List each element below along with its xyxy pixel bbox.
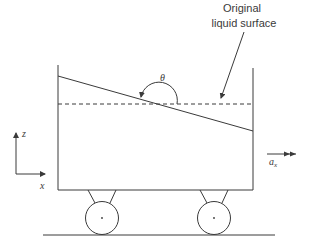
left-wheel-strut-a (88, 190, 95, 203)
right-wheel-axle (213, 217, 215, 219)
acceleration-arrowhead-1 (284, 152, 290, 157)
right-wheel-strut-a (200, 190, 207, 203)
original-surface-label-line1: Original (223, 2, 261, 14)
acceleration-label: ax (269, 156, 278, 169)
acceleration-indicator: ax (267, 152, 296, 170)
original-surface-pointer-arrow (221, 32, 244, 98)
right-wheel-strut-b (222, 190, 228, 203)
left-wheel-axle (101, 217, 103, 219)
acceleration-arrowhead-2 (290, 152, 296, 157)
right-wheel-assembly (198, 190, 231, 235)
diagram-canvas: θ Original liquid surface z x ax (0, 0, 311, 247)
left-wheel-strut-b (110, 190, 116, 203)
x-axis-label: x (39, 180, 45, 191)
original-surface-label-line2: liquid surface (212, 17, 277, 29)
left-wheel-assembly (86, 190, 119, 235)
coordinate-axes: z x (16, 128, 45, 191)
theta-label: θ (160, 72, 165, 83)
z-axis-label: z (21, 128, 26, 139)
